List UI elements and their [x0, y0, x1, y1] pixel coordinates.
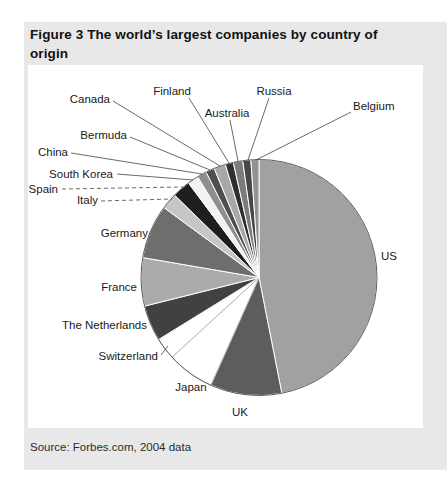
- slice-label-australia: Australia: [205, 107, 250, 119]
- slice-label-south-korea: South Korea: [49, 168, 114, 180]
- leader-line-belgium: [256, 112, 351, 160]
- slice-label-finland: Finland: [153, 85, 191, 97]
- slice-label-us: US: [381, 250, 397, 262]
- leader-line-australia: [230, 120, 238, 161]
- slice-label-france: France: [101, 281, 137, 293]
- source-text: Source: Forbes.com, 2004 data: [30, 441, 191, 453]
- slice-label-spain: Spain: [29, 183, 58, 195]
- leader-line-italy: [101, 199, 172, 201]
- pie-slice-us: [259, 159, 377, 393]
- slice-label-italy: Italy: [77, 194, 98, 206]
- slice-label-switzerland: Switzerland: [99, 350, 158, 362]
- slice-label-the-netherlands: The Netherlands: [62, 319, 147, 331]
- slice-label-russia: Russia: [256, 85, 292, 97]
- pie-chart: USUKJapanSwitzerlandThe NetherlandsFranc…: [0, 0, 447, 482]
- leader-line-south-korea: [117, 174, 193, 180]
- slice-label-japan: Japan: [175, 381, 206, 393]
- slice-label-germany: Germany: [101, 227, 149, 239]
- leader-line-spain: [62, 187, 183, 189]
- figure-page: Figure 3 The world’s largest companies b…: [0, 0, 447, 482]
- slice-label-belgium: Belgium: [353, 100, 395, 112]
- slice-label-bermuda: Bermuda: [80, 129, 127, 141]
- slice-label-china: China: [38, 146, 69, 158]
- slice-label-uk: UK: [232, 406, 248, 418]
- leader-line-russia: [248, 98, 269, 160]
- slice-label-canada: Canada: [70, 93, 111, 105]
- leader-line-bermuda: [130, 137, 210, 170]
